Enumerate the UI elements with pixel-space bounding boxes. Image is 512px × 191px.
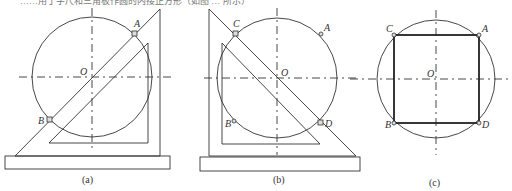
caption-a: (a) [82,174,93,186]
set-square-large [15,9,160,156]
point-d-marker [318,120,323,125]
label-c: C [386,23,393,34]
point-d-marker [477,121,481,125]
point-c-marker [233,31,238,36]
label-o: O [427,68,434,79]
set-square-inner [49,43,148,143]
label-b: B [38,115,44,126]
label-a: A [323,22,331,33]
point-b-marker [47,117,52,122]
label-d: D [481,119,490,130]
label-c: C [233,18,240,29]
t-square-ruler [5,156,170,169]
label-b: B [385,119,391,130]
point-a-marker [477,33,481,37]
point-a-marker [319,32,323,36]
caption-b: (b) [273,174,285,186]
label-a: A [133,18,141,29]
label-d: D [324,118,333,129]
panel-b: C A B D O (b) [200,8,360,186]
label-a: A [481,23,489,34]
set-square-large [209,9,356,156]
caption-c: (c) [429,177,440,189]
point-a-marker [132,31,137,36]
set-square-inner [222,43,320,144]
point-b-marker [232,119,236,123]
point-b-marker [392,121,396,125]
label-o: O [80,66,87,77]
panel-c: C A B D O (c) [350,10,508,189]
t-square-ruler [200,157,360,171]
label-b: B [225,118,231,129]
diagram-canvas: A B O (a) C A B D O (b) C A B D O [0,0,512,191]
label-o: O [281,67,288,78]
panel-a: A B O (a) [5,8,175,186]
